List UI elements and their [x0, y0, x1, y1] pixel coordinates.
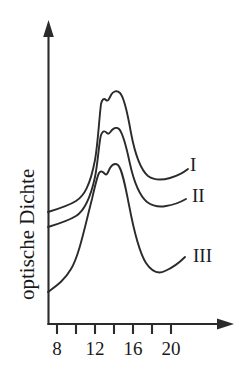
x-tick-label-12: 12 — [86, 339, 105, 358]
curve-series-III — [48, 164, 185, 292]
series-label-I: I — [190, 155, 196, 174]
x-tick-label-20: 20 — [162, 339, 181, 358]
arrow-up-icon — [43, 20, 54, 37]
arrow-right-icon — [217, 319, 234, 330]
y-axis — [43, 20, 54, 325]
series-label-III: III — [193, 246, 212, 265]
series-label-II: II — [192, 186, 205, 205]
curve-series-II — [48, 128, 186, 227]
x-tick-label-8: 8 — [52, 339, 62, 358]
x-tick-label-16: 16 — [124, 339, 143, 358]
y-axis-title: optische Dichte — [14, 100, 40, 300]
optical-density-chart: optische Dichte 8 12 16 20 I II III — [0, 0, 244, 377]
x-axis-ticks — [57, 324, 171, 334]
curve-series-I — [48, 91, 188, 212]
